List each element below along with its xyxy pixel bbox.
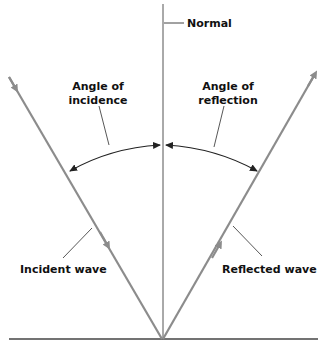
reflected-wave-label: Reflected wave [222, 263, 317, 276]
reflection-diagram: Normal Angle of incidence Angle of refle… [0, 0, 323, 349]
incident-wave-label: Incident wave [20, 263, 107, 276]
reflected-wave-ray [163, 74, 315, 339]
angle-incidence-leader [99, 106, 109, 145]
reflected-wave-leader [233, 226, 262, 256]
angle-incidence-arc [70, 145, 160, 171]
normal-label: Normal [187, 17, 232, 30]
incident-wave-leader [63, 228, 92, 258]
angle-incidence-label-line2: incidence [68, 94, 127, 107]
reflected-arrow-top-icon [308, 74, 315, 86]
incident-arrow-mid-icon [100, 232, 108, 246]
incident-wave-ray [9, 77, 162, 339]
angle-reflection-label-line2: reflection [198, 94, 257, 107]
angle-reflection-leader [214, 106, 224, 147]
incident-arrow-top-icon [9, 77, 16, 89]
angle-incidence-label-line1: Angle of [72, 80, 124, 93]
angle-reflection-label-line1: Angle of [202, 80, 254, 93]
angle-reflection-arc [166, 145, 257, 171]
